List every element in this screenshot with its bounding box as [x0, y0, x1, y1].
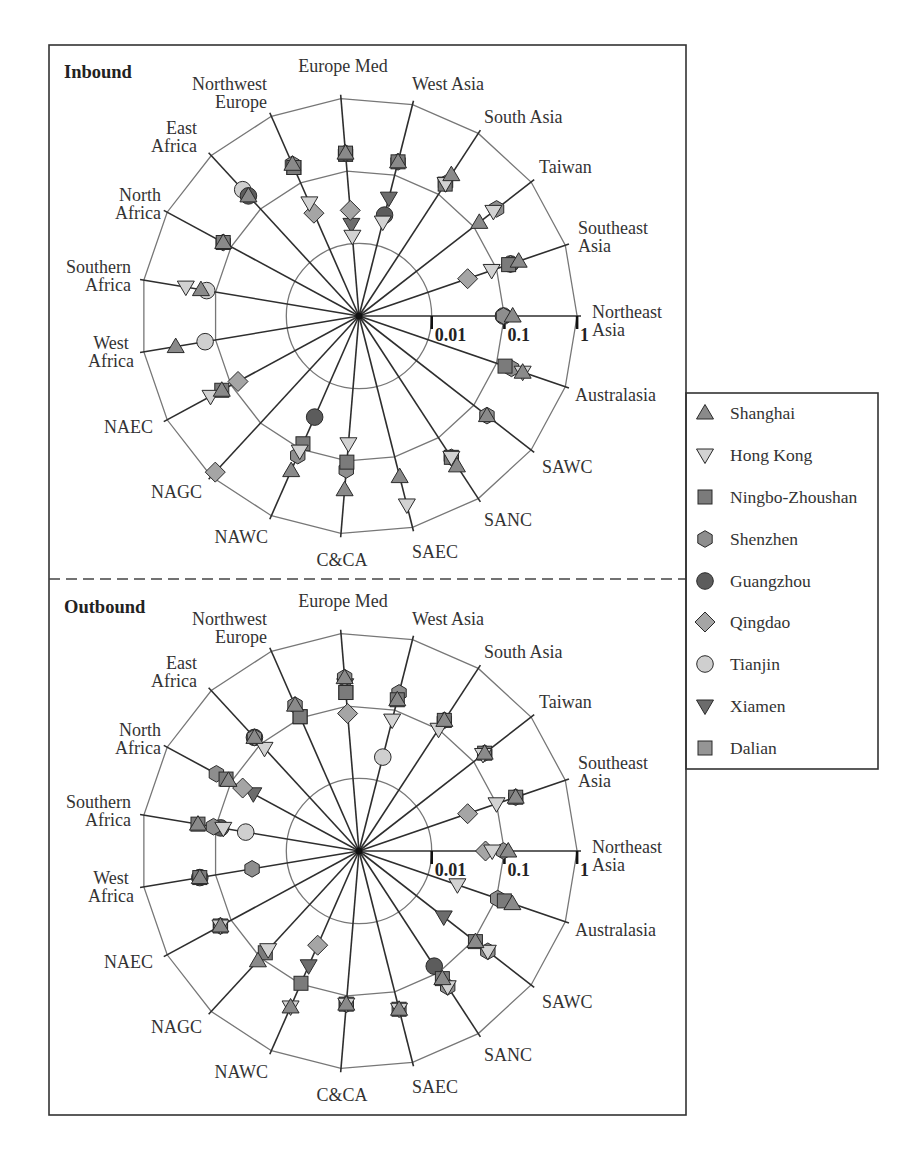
axis-east-africa	[209, 688, 359, 851]
axis-label-west-africa: WestAfrica	[88, 333, 134, 371]
axis-label-north-africa: NorthAfrica	[115, 185, 161, 223]
axis-label-sawc: SAWC	[542, 457, 593, 477]
axis-c-ca	[341, 851, 359, 1072]
triangle-down-icon	[697, 449, 714, 464]
axis-label-northwest-europe: NorthwestEurope	[192, 609, 267, 647]
axis-c-ca	[341, 316, 359, 537]
marker-ningbo-zhoushan-australasia	[498, 359, 512, 373]
axis-label-east-africa: EastAfrica	[151, 653, 197, 691]
marker-qingdao-nawc	[308, 935, 328, 955]
marker-shanghai-south-asia	[443, 166, 460, 181]
axis-label-southern-africa: SouthernAfrica	[66, 257, 131, 295]
marker-hong-kong-west-asia	[374, 216, 391, 231]
marker-tianjin-southern-africa	[237, 824, 254, 841]
axis-nagc	[209, 316, 359, 479]
axis-south-asia	[359, 130, 480, 316]
axis-label-europe-med: Europe Med	[298, 56, 387, 76]
qingdao-legend-marker	[695, 612, 715, 632]
marker-shanghai-saec	[391, 468, 408, 483]
tick-label: 1	[580, 325, 589, 345]
axis-label-north-africa: NorthAfrica	[115, 720, 161, 758]
axis-label-c-ca: C&CA	[316, 550, 367, 570]
legend-item-ningbo-zhoushan: Ningbo-Zhoushan	[698, 487, 858, 507]
marker-ningbo-zhoushan-nawc	[294, 976, 308, 990]
legend-item-dalian: Dalian	[698, 738, 777, 758]
legend-label: Tianjin	[730, 654, 780, 674]
axis-label-northeast-asia: NortheastAsia	[592, 302, 662, 340]
axis-label-nagc: NAGC	[151, 482, 202, 502]
tianjin-legend-marker	[697, 656, 714, 673]
xiamen-legend-marker	[697, 700, 714, 715]
axis-label-naec: NAEC	[104, 952, 153, 972]
axis-label-nagc: NAGC	[151, 1017, 202, 1037]
marker-shanghai-taiwan	[471, 214, 488, 229]
axis-label-c-ca: C&CA	[316, 1085, 367, 1105]
legend-label: Xiamen	[730, 696, 786, 716]
axis-europe-med	[341, 630, 359, 851]
marker-hong-kong-saec	[398, 499, 415, 514]
axis-label-taiwan: Taiwan	[539, 692, 592, 712]
legend: Shanghai Hong Kong Ningbo-Zhoushan Shenz…	[686, 393, 878, 769]
axis-label-sanc: SANC	[484, 510, 532, 530]
axis-label-northeast-asia: NortheastAsia	[592, 837, 662, 875]
panel-title-inbound: Inbound	[64, 62, 133, 82]
marker-qingdao-naec	[228, 371, 248, 391]
marker-xiamen-nawc	[300, 960, 317, 975]
legend-item-shenzhen: Shenzhen	[698, 529, 798, 549]
center-hub	[356, 313, 363, 320]
axis-west-asia	[359, 636, 414, 851]
legend-item-guangzhou: Guangzhou	[697, 571, 811, 591]
marker-hong-kong-west-asia	[384, 714, 401, 729]
axis-label-nawc: NAWC	[214, 527, 268, 547]
axis-label-west-asia: West Asia	[412, 74, 484, 94]
axis-label-east-africa: EastAfrica	[151, 118, 197, 156]
triangle-down-icon	[697, 700, 714, 715]
axis-label-south-asia: South Asia	[484, 642, 563, 662]
legend-item-hong-kong: Hong Kong	[697, 445, 813, 465]
marker-tianjin-west-africa	[197, 333, 214, 350]
marker-hong-kong-c-ca	[340, 438, 357, 453]
axis-label-saec: SAEC	[412, 1077, 458, 1097]
marker-qingdao-europe-med	[340, 200, 360, 220]
marker-tianjin-west-asia	[374, 749, 391, 766]
figure: Inbound 0.010.11 NortheastAsiaSoutheastA…	[0, 0, 918, 1153]
legend-label: Guangzhou	[730, 571, 811, 591]
axis-label-northwest-europe: NorthwestEurope	[192, 74, 267, 112]
guangzhou-legend-marker	[697, 573, 714, 590]
axis-nagc	[209, 851, 359, 1014]
legend-item-tianjin: Tianjin	[697, 654, 780, 674]
legend-label: Dalian	[730, 738, 777, 758]
marker-qingdao-southeast-asia	[458, 269, 478, 289]
axis-label-naec: NAEC	[104, 417, 153, 437]
marker-shanghai-nawc	[283, 462, 300, 477]
axis-label-west-africa: WestAfrica	[88, 868, 134, 906]
circle-icon	[697, 573, 714, 590]
legend-label: Qingdao	[730, 612, 791, 632]
axis-label-sanc: SANC	[484, 1045, 532, 1065]
axis-label-southeast-asia: SoutheastAsia	[578, 753, 648, 791]
axis-east-africa	[209, 153, 359, 316]
tick-label: 0.1	[507, 860, 530, 880]
legend-label: Shanghai	[730, 403, 795, 423]
axis-saec	[359, 851, 414, 1066]
legend-label: Hong Kong	[730, 445, 812, 465]
axis-label-south-asia: South Asia	[484, 107, 563, 127]
hong-kong-legend-marker	[697, 449, 714, 464]
marker-ningbo-zhoushan-europe-med	[339, 686, 353, 700]
marker-ningbo-zhoushan-northwest-europe	[293, 710, 307, 724]
axis-nawc	[270, 851, 359, 1054]
axis-label-southern-africa: SouthernAfrica	[66, 792, 131, 830]
axis-label-europe-med: Europe Med	[298, 591, 387, 611]
legend-item-shanghai: Shanghai	[697, 403, 796, 423]
panel-title-outbound: Outbound	[64, 597, 146, 617]
axis-label-southeast-asia: SoutheastAsia	[578, 218, 648, 256]
axis-label-west-asia: West Asia	[412, 609, 484, 629]
center-hub	[356, 848, 363, 855]
legend-label: Shenzhen	[730, 529, 798, 549]
axis-label-sawc: SAWC	[542, 992, 593, 1012]
hexagon-icon	[698, 531, 712, 548]
diamond-icon	[695, 612, 715, 632]
marker-ningbo-zhoushan-c-ca	[340, 455, 354, 469]
axis-label-saec: SAEC	[412, 542, 458, 562]
marker-shenzhen-west-africa	[245, 861, 259, 878]
